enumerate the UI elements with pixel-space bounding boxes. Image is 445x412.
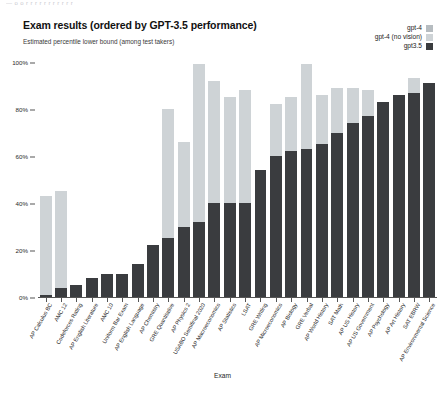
bar-gpt3-5 [147, 245, 159, 297]
bar-gpt3-5 [255, 170, 267, 297]
x-tick-mark [161, 297, 176, 302]
legend-item-gpt-4: gpt-4 [407, 24, 433, 32]
y-tick-label: 0% [19, 294, 38, 301]
x-tick-label: AP English Literature [67, 302, 98, 350]
bar-gpt3-5 [224, 203, 236, 297]
table-row [84, 62, 99, 297]
table-row [314, 62, 329, 297]
x-tick-label: AMC 12 [53, 302, 68, 323]
x-tick-mark [253, 297, 268, 302]
x-tick-mark [130, 297, 145, 302]
bar-gpt-4-no-vision- [55, 191, 67, 297]
x-tick-mark [360, 297, 375, 302]
bar-gpt3-5 [70, 285, 82, 297]
table-row [237, 62, 252, 297]
y-tick-text: 20% [16, 247, 28, 254]
x-tick-mark [84, 297, 99, 302]
clipped-header-text: — o o r r r r r r r r r r r [6, 0, 73, 7]
table-row [391, 62, 406, 297]
legend-item-gpt3-5: gpt3.5 [404, 42, 433, 50]
x-tick-mark [99, 297, 114, 302]
bar-gpt3-5 [101, 274, 113, 298]
bar-gpt3-5 [301, 149, 313, 297]
y-tick-label: 60% [16, 153, 38, 160]
bar-gpt3-5 [393, 95, 405, 297]
plot-area: 0%20%40%60%80%100% [38, 62, 437, 297]
table-row [360, 62, 375, 297]
table-row [53, 62, 68, 297]
y-tick-label: 100% [12, 59, 38, 66]
x-tick-mark [268, 297, 283, 302]
table-row [268, 62, 283, 297]
table-row [191, 62, 206, 297]
table-row [145, 62, 160, 297]
y-tick-mark [30, 109, 35, 110]
chart-title: Exam results (ordered by GPT-3.5 perform… [23, 19, 257, 31]
chart-legend: gpt-4gpt-4 (no vision)gpt3.5 [375, 24, 433, 50]
bar-gpt3-5 [377, 102, 389, 297]
x-tick-mark [207, 297, 222, 302]
y-tick-text: 0% [19, 294, 28, 301]
bar-gpt3-5 [347, 123, 359, 297]
bar-gpt3-5 [362, 116, 374, 297]
table-row [161, 62, 176, 297]
y-tick-mark [30, 297, 35, 298]
x-tick-mark [314, 297, 329, 302]
y-tick-text: 100% [12, 59, 28, 66]
table-row [406, 62, 421, 297]
bar-gpt3-5 [116, 274, 128, 298]
table-row [130, 62, 145, 297]
legend-item-gpt-4-no-vision-: gpt-4 (no vision) [375, 33, 433, 41]
bar-gpt3-5 [178, 227, 190, 298]
x-tick-mark [345, 297, 360, 302]
table-row [115, 62, 130, 297]
x-tick-mark [69, 297, 84, 302]
table-row [253, 62, 268, 297]
y-tick-mark [30, 203, 35, 204]
table-row [299, 62, 314, 297]
x-tick-mark [330, 297, 345, 302]
bar-gpt3-5 [239, 203, 251, 297]
y-tick-label: 20% [16, 247, 38, 254]
y-tick-mark [30, 156, 35, 157]
bar-gpt3-5 [331, 133, 343, 298]
bar-gpt3-5 [270, 156, 282, 297]
x-tick-label: AP Calculus BC [28, 302, 53, 339]
table-row [207, 62, 222, 297]
legend-label: gpt3.5 [404, 42, 422, 50]
bar-gpt3-5 [86, 278, 98, 297]
y-tick-text: 40% [16, 200, 28, 207]
x-tick-mark [53, 297, 68, 302]
bar-gpt3-5 [423, 83, 435, 297]
bar-gpt3-5 [193, 222, 205, 297]
y-tick-text: 60% [16, 153, 28, 160]
x-axis-title: Exam [0, 372, 445, 379]
legend-label: gpt-4 [407, 24, 422, 32]
y-tick-mark [30, 62, 35, 63]
x-tick-mark [176, 297, 191, 302]
x-tick-mark [237, 297, 252, 302]
x-tick-mark [376, 297, 391, 302]
bar-gpt3-5 [208, 203, 220, 297]
table-row [345, 62, 360, 297]
legend-swatch [426, 34, 433, 41]
y-tick-text: 80% [16, 106, 28, 113]
table-row [284, 62, 299, 297]
x-tick-mark [284, 297, 299, 302]
bar-gpt-4-no-vision- [40, 196, 52, 297]
x-tick-mark [115, 297, 130, 302]
bar-gpt3-5 [408, 93, 420, 297]
table-row [376, 62, 391, 297]
table-row [422, 62, 437, 297]
bar-gpt3-5 [162, 238, 174, 297]
x-tick-mark [422, 297, 437, 302]
bar-gpt3-5 [316, 144, 328, 297]
x-tick-mark [391, 297, 406, 302]
x-tick-mark [38, 297, 53, 302]
x-tick-label: AMC 10 [99, 302, 114, 323]
legend-swatch [426, 25, 433, 32]
bar-gpt3-5 [285, 151, 297, 297]
x-tick-mark [145, 297, 160, 302]
table-row [99, 62, 114, 297]
table-row [69, 62, 84, 297]
